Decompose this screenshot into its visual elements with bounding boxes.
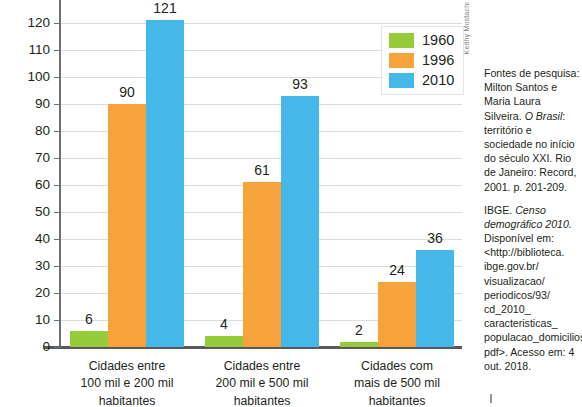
- y-axis-tick-label: 20: [0, 286, 50, 300]
- y-axis-tick-mark: [54, 77, 61, 78]
- y-axis-tick-mark: [54, 131, 61, 132]
- sources-note: Fontes de pesquisa: Milton Santos e Mari…: [484, 66, 580, 373]
- y-axis-tick-label: 100: [0, 70, 50, 84]
- bar-value-label: 121: [136, 1, 194, 15]
- y-axis-tick-mark: [54, 185, 61, 186]
- y-axis-tick-label: 110: [0, 43, 50, 57]
- page-corner-mark: [490, 394, 492, 403]
- legend-swatch-icon: [389, 53, 414, 68]
- y-axis-tick-label: 60: [0, 178, 50, 192]
- y-axis-tick-mark: [54, 266, 61, 267]
- bar-1996-group-1[interactable]: [108, 104, 146, 347]
- legend-item-2010[interactable]: 2010: [389, 73, 454, 88]
- y-axis-tick-mark: [54, 23, 61, 24]
- source-paragraph-2: IBGE. Censo demográfico 2010. Disponível…: [484, 203, 580, 373]
- y-axis-tick-mark: [54, 347, 61, 348]
- bar-1960-group-3[interactable]: [340, 342, 378, 347]
- x-axis-category-label-1: Cidades entre 100 mil e 200 mil habitant…: [52, 358, 202, 407]
- chart-figure: 0102030405060708090100110120130 69012146…: [0, 0, 582, 407]
- legend-item-1996[interactable]: 1996: [389, 53, 454, 68]
- legend-swatch-icon: [389, 33, 414, 48]
- y-axis-tick-label: 130: [0, 0, 50, 3]
- y-axis-tick-label: 70: [0, 151, 50, 165]
- bar-2010-group-3[interactable]: [416, 250, 454, 347]
- bar-1960-group-1[interactable]: [70, 331, 108, 347]
- y-axis-tick-label: 80: [0, 124, 50, 138]
- x-axis-category-label-3: Cidades com mais de 500 mil habitantes: [322, 358, 472, 407]
- y-axis-tick-label: 50: [0, 205, 50, 219]
- source-2-pre: IBGE.: [484, 204, 515, 216]
- gridline: [60, 23, 462, 24]
- y-axis-tick-label: 120: [0, 16, 50, 30]
- bar-1996-group-2[interactable]: [243, 182, 281, 347]
- source-1-post: : território e sociedade no início do sé…: [484, 110, 576, 193]
- bar-value-label: 93: [271, 77, 329, 91]
- legend-item-1960[interactable]: 1960: [389, 33, 454, 48]
- legend-label: 1960: [422, 33, 454, 48]
- y-axis-tick-label: 30: [0, 259, 50, 273]
- y-axis-tick-mark: [54, 293, 61, 294]
- x-axis-category-label-2: Cidades entre 200 mil e 500 mil habitant…: [187, 358, 337, 407]
- bar-value-label: 36: [406, 231, 464, 245]
- legend-swatch-icon: [389, 73, 414, 88]
- y-axis-tick-label: 0: [0, 340, 50, 354]
- y-axis-tick-label: 40: [0, 232, 50, 246]
- legend-label: 2010: [422, 73, 454, 88]
- source-2-post: Disponível em: <http://biblioteca. ibge.…: [484, 232, 582, 372]
- bar-2010-group-1[interactable]: [146, 20, 184, 347]
- bar-1960-group-2[interactable]: [205, 336, 243, 347]
- bar-2010-group-2[interactable]: [281, 96, 319, 347]
- chart-legend[interactable]: 196019962010: [381, 26, 464, 95]
- y-axis-line: [59, 0, 61, 347]
- legend-label: 1996: [422, 53, 454, 68]
- y-axis-tick-mark: [54, 239, 61, 240]
- bar-1996-group-3[interactable]: [378, 282, 416, 347]
- source-paragraph-1: Fontes de pesquisa: Milton Santos e Mari…: [484, 66, 580, 194]
- y-axis-tick-mark: [54, 50, 61, 51]
- y-axis-tick-label: 10: [0, 313, 50, 327]
- photographer-credit: Keithy Mostachi: [463, 2, 470, 54]
- y-axis-tick-mark: [54, 212, 61, 213]
- y-axis-tick-label: 90: [0, 97, 50, 111]
- source-1-title: O Brasil: [525, 110, 563, 122]
- y-axis-tick-mark: [54, 104, 61, 105]
- y-axis-tick-mark: [54, 158, 61, 159]
